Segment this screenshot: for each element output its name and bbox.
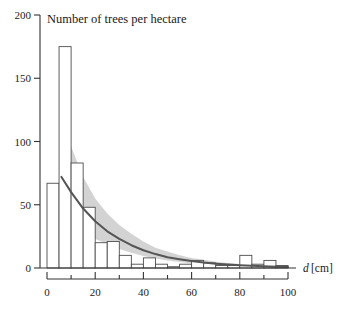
histogram-bar [71, 163, 83, 268]
histogram-bar [131, 264, 143, 268]
x-axis-label-unit: [cm] [311, 262, 333, 274]
histogram-bar [107, 241, 119, 268]
chart-title: Number of trees per hectare [47, 12, 187, 26]
histogram-bar [119, 255, 131, 268]
y-tick-label: 50 [20, 199, 32, 211]
histogram-figure: 050100150200 020406080100 Number of tree… [0, 0, 343, 312]
tree-diameter-histogram-chart: 050100150200 020406080100 Number of tree… [0, 0, 343, 312]
y-tick-label: 150 [15, 72, 32, 84]
histogram-bar [155, 264, 167, 268]
x-tick-label: 100 [280, 286, 297, 298]
y-tick-label: 200 [15, 9, 32, 21]
x-tick-label: 40 [138, 286, 150, 298]
histogram-bar [47, 183, 59, 268]
histogram-bar [83, 207, 95, 268]
y-tick-label: 0 [26, 262, 32, 274]
y-tick-label: 100 [15, 136, 32, 148]
x-tick-label: 80 [234, 286, 246, 298]
histogram-bar [59, 47, 71, 268]
x-tick-label: 60 [186, 286, 198, 298]
x-axis-label-variable: d [303, 262, 309, 274]
histogram-bar [95, 243, 107, 268]
histogram-bar [143, 258, 155, 268]
x-tick-label: 20 [90, 286, 102, 298]
x-tick-label: 0 [44, 286, 50, 298]
histogram-bar [180, 264, 192, 268]
